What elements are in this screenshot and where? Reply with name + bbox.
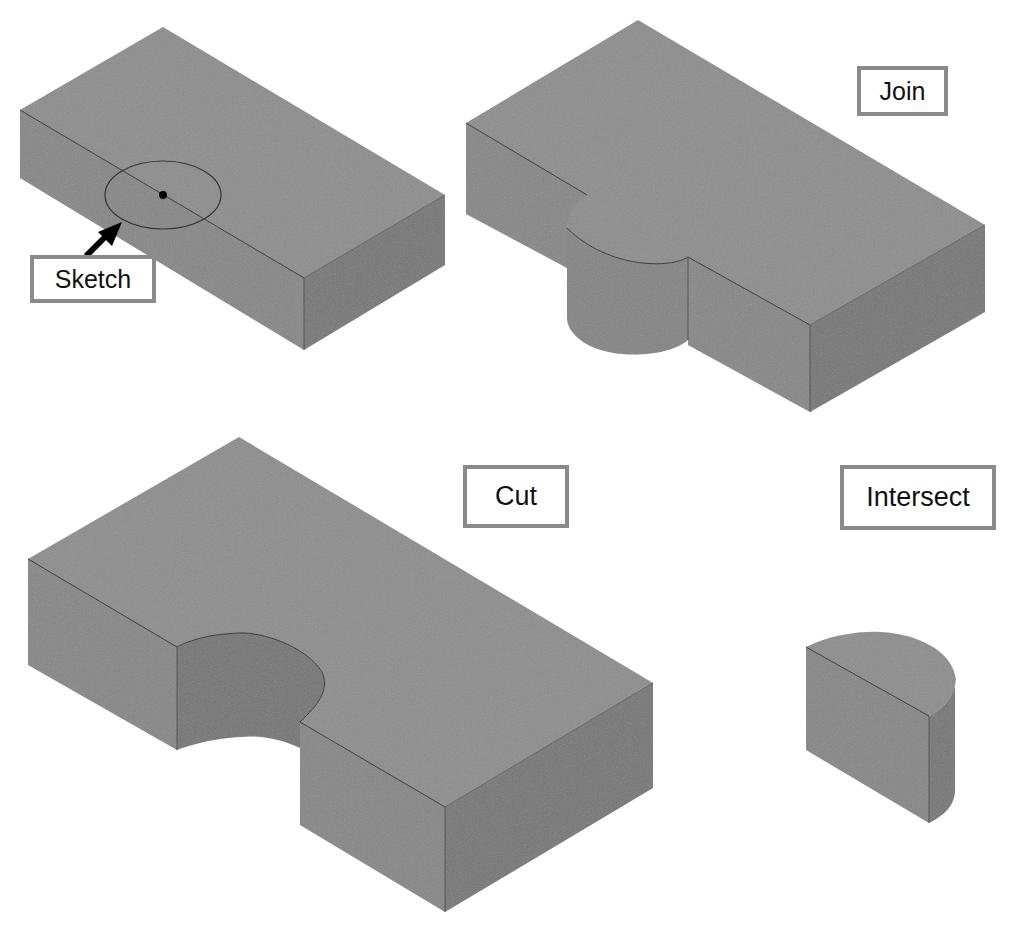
intersect-label: Intersect (840, 465, 996, 530)
cut-label: Cut (463, 465, 569, 528)
boolean-operations-diagram (0, 0, 1011, 928)
intersect-solid (806, 632, 955, 823)
join-label: Join (857, 66, 948, 116)
sketch-center-point (159, 191, 167, 199)
sketch-label: Sketch (30, 255, 156, 303)
